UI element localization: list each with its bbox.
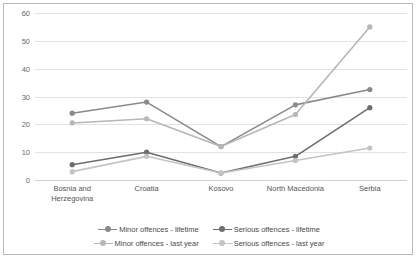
y-tick-label-40: 40 bbox=[22, 64, 30, 73]
legend-item[interactable]: Serious offences - last year bbox=[213, 239, 325, 248]
series-0 bbox=[70, 87, 373, 149]
data-point bbox=[293, 158, 298, 163]
y-tick-label-20: 20 bbox=[22, 120, 30, 129]
plot-area: 0102030405060 bbox=[35, 13, 407, 180]
legend-marker-icon bbox=[98, 225, 117, 234]
legend-item[interactable]: Minor offences - lifetime bbox=[98, 225, 198, 234]
series-line bbox=[72, 148, 370, 173]
x-axis-labels: Bosnia and HerzegovinaCroatiaKosovoNorth… bbox=[35, 184, 407, 216]
x-axis-label: Kosovo bbox=[184, 184, 258, 194]
y-tick-label-0: 0 bbox=[26, 176, 30, 185]
data-point bbox=[144, 99, 149, 104]
x-axis-label: Bosnia and Herzegovina bbox=[35, 184, 109, 204]
series-line bbox=[72, 90, 370, 147]
data-point bbox=[144, 116, 149, 121]
data-point bbox=[70, 120, 75, 125]
x-axis-label: Serbia bbox=[333, 184, 407, 194]
data-point bbox=[144, 154, 149, 159]
series-3 bbox=[70, 145, 373, 175]
data-point bbox=[70, 169, 75, 174]
series-lines bbox=[35, 13, 407, 180]
gridline-0 bbox=[35, 180, 407, 181]
x-axis-label: North Macedonia bbox=[258, 184, 332, 194]
data-point bbox=[218, 144, 223, 149]
legend-row: Minor offences - lifetimeSerious offence… bbox=[4, 222, 414, 236]
legend-marker-icon bbox=[213, 239, 232, 248]
y-tick-label-30: 30 bbox=[22, 92, 30, 101]
legend-marker-icon bbox=[213, 225, 232, 234]
y-tick-label-10: 10 bbox=[22, 148, 30, 157]
chart-plot-wrapper: 0102030405060 Bosnia and HerzegovinaCroa… bbox=[4, 4, 414, 256]
data-point bbox=[367, 87, 372, 92]
legend-label: Serious offences - lifetime bbox=[234, 225, 320, 234]
data-point bbox=[367, 24, 372, 29]
legend-label: Minor offences - lifetime bbox=[119, 225, 198, 234]
data-point bbox=[367, 145, 372, 150]
chart-legend: Minor offences - lifetimeSerious offence… bbox=[4, 222, 414, 250]
legend-label: Serious offences - last year bbox=[234, 239, 325, 248]
data-point bbox=[70, 162, 75, 167]
x-axis-label: Croatia bbox=[110, 184, 184, 194]
data-point bbox=[70, 111, 75, 116]
data-point bbox=[293, 112, 298, 117]
series-line bbox=[72, 27, 370, 147]
legend-row: Minor offences - last yearSerious offenc… bbox=[4, 236, 414, 250]
y-tick-label-50: 50 bbox=[22, 36, 30, 45]
y-tick-label-60: 60 bbox=[22, 9, 30, 18]
data-point bbox=[293, 102, 298, 107]
data-point bbox=[218, 170, 223, 175]
legend-item[interactable]: Minor offences - last year bbox=[94, 239, 199, 248]
chart-frame: 0102030405060 Bosnia and HerzegovinaCroa… bbox=[3, 3, 413, 255]
legend-item[interactable]: Serious offences - lifetime bbox=[213, 225, 320, 234]
series-1 bbox=[70, 105, 373, 176]
series-2 bbox=[70, 24, 373, 149]
data-point bbox=[367, 105, 372, 110]
legend-marker-icon bbox=[94, 239, 113, 248]
legend-label: Minor offences - last year bbox=[115, 239, 199, 248]
